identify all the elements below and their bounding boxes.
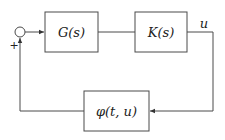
block-diagram: G(s) K(s) u φ(t, u) + xyxy=(0,0,225,140)
block-phi: φ(t, u) xyxy=(84,91,149,131)
block-g-label: G(s) xyxy=(58,25,85,40)
block-k: K(s) xyxy=(135,12,187,52)
summing-junction xyxy=(15,27,25,37)
block-k-label: K(s) xyxy=(147,25,175,40)
sum-plus-sign: + xyxy=(9,39,18,52)
block-phi-label: φ(t, u) xyxy=(96,104,137,119)
block-g: G(s) xyxy=(45,12,98,52)
signal-u-label: u xyxy=(200,16,208,31)
